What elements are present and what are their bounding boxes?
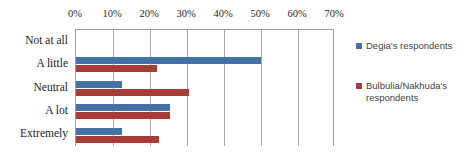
x-tick-label-0: 0% (55, 8, 95, 20)
legend-label-series-1: Bulbulia/Nakhuda's respondents (366, 80, 472, 104)
bar (76, 65, 157, 72)
x-tick-label-2: 20% (129, 8, 169, 20)
x-tick-label-1: 10% (92, 8, 132, 20)
x-tick-label-4: 40% (203, 8, 243, 20)
bar (76, 136, 159, 143)
category-label-0: Not at all (0, 34, 68, 47)
x-tick-label-7: 70% (314, 8, 354, 20)
x-axis-tick-labels: 0%10%20%30%40%50%60%70% (0, 8, 472, 22)
bar (76, 104, 170, 111)
grouped-bar-chart: 0%10%20%30%40%50%60%70% Not at allA litt… (0, 0, 472, 153)
x-tick-label-5: 50% (240, 8, 280, 20)
legend-entry-series-0[interactable]: Degia's respondents (356, 40, 472, 52)
plot-area (75, 29, 334, 146)
category-label-1: A little (0, 57, 68, 70)
category-label-4: Extremely (0, 127, 68, 140)
legend-swatch-icon-series-1 (356, 83, 362, 89)
bar-group (76, 30, 333, 53)
bar (76, 81, 122, 88)
legend-entry-series-1[interactable]: Bulbulia/Nakhuda's respondents (356, 80, 472, 104)
bar-group (76, 77, 333, 100)
bar (76, 112, 170, 119)
bar-rows (76, 30, 333, 146)
category-label-3: A lot (0, 104, 68, 117)
bar (76, 57, 261, 64)
bar-group (76, 124, 333, 147)
bar (76, 89, 189, 96)
bar (76, 128, 122, 135)
x-tick-label-6: 60% (277, 8, 317, 20)
category-axis-labels: Not at allA littleNeutralA lotExtremely (0, 29, 72, 146)
x-tick-label-3: 30% (166, 8, 206, 20)
category-label-2: Neutral (0, 81, 68, 94)
legend-swatch-icon-series-0 (356, 43, 362, 49)
legend-label-series-0: Degia's respondents (366, 40, 452, 52)
bar-group (76, 53, 333, 76)
bar-group (76, 100, 333, 123)
